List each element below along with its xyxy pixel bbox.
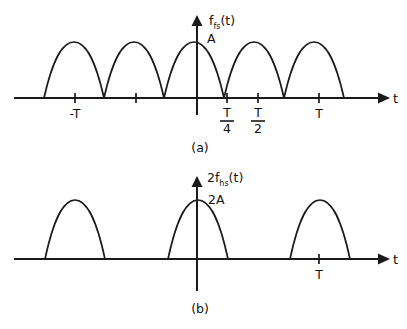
panel-b-waveform-hump-3 bbox=[290, 200, 350, 259]
panel-b-y-axis-label-prefix: 2 bbox=[207, 170, 215, 185]
panel-a-x-axis-arrowhead bbox=[378, 93, 390, 104]
panel-a-waveform bbox=[44, 42, 344, 98]
panel-b-tick-label-T: T bbox=[314, 267, 323, 282]
figure-container: t ffs(t) A -T T 4 bbox=[0, 0, 407, 329]
panel-a-x-axis-label: t bbox=[393, 91, 398, 106]
panel-a-y-axis-label-argument: (t) bbox=[220, 13, 235, 28]
panel-a-y-axis-label: ffs(t) bbox=[209, 13, 235, 31]
panel-a-tick-label-T-over-4: T 4 bbox=[220, 105, 234, 136]
panel-b-x-axis-label: t bbox=[393, 252, 398, 267]
panel-b-y-axis-label-subscript: hs bbox=[219, 179, 228, 188]
panel-a-tick-label-negT: -T bbox=[70, 106, 81, 121]
panel-a-frac-numerator-T2: T bbox=[253, 105, 262, 120]
panel-a-frac-numerator-T4: T bbox=[222, 105, 231, 120]
panel-a-tick-label-T: T bbox=[314, 106, 323, 121]
panel-a: t ffs(t) A -T T 4 bbox=[14, 13, 398, 155]
panel-b-y-axis-label-argument: (t) bbox=[229, 170, 244, 185]
panel-a-tick-label-T-over-2: T 2 bbox=[251, 105, 265, 136]
panel-a-frac-denominator-T2: 2 bbox=[254, 121, 262, 136]
panel-b: t 2fhs(t) 2A T (b) bbox=[14, 170, 398, 316]
panel-b-caption: (b) bbox=[191, 301, 209, 316]
panel-b-x-axis-arrowhead bbox=[378, 254, 390, 265]
panel-a-frac-denominator-T4: 4 bbox=[223, 121, 231, 136]
panel-b-waveform-hump-1 bbox=[45, 200, 105, 259]
panel-b-y-axis-arrowhead bbox=[192, 176, 203, 187]
panel-b-y-axis-label: 2fhs(t) bbox=[207, 170, 243, 188]
panel-a-y-axis-label-subscript: fs bbox=[213, 22, 220, 31]
panel-b-amplitude-label: 2A bbox=[208, 192, 225, 207]
panel-a-amplitude-label: A bbox=[207, 31, 216, 46]
panel-a-y-axis-arrowhead bbox=[192, 15, 203, 26]
panel-a-caption: (a) bbox=[191, 140, 208, 155]
rectified-waveform-figure: t ffs(t) A -T T 4 bbox=[0, 0, 407, 329]
